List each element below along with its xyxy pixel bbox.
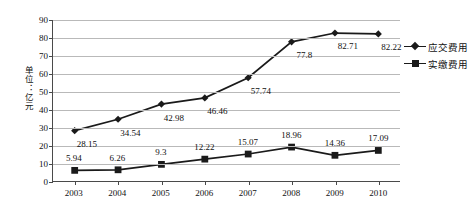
y-axis-tick [49, 20, 53, 21]
data-point-marker [71, 167, 78, 174]
y-axis-tick [49, 38, 53, 39]
x-axis-tick-label: 2006 [195, 188, 213, 198]
y-axis-tick-label: 70 [26, 52, 48, 61]
data-point-marker [332, 152, 339, 159]
y-axis-tick-label: 60 [26, 70, 48, 79]
data-point-marker [375, 30, 382, 37]
x-axis-tick-label: 2007 [239, 188, 257, 198]
x-axis-tick [162, 181, 163, 185]
x-axis-tick [292, 181, 293, 185]
y-axis-tick [49, 92, 53, 93]
data-point-marker [288, 144, 295, 151]
gridline [53, 56, 400, 57]
y-axis-tick-labels: 0102030405060708090 [26, 0, 48, 218]
data-point-marker [114, 116, 121, 123]
data-point-marker [375, 147, 382, 154]
legend-square-icon [404, 58, 426, 69]
line-chart: 单位：亿元 0102030405060708090 应交费用实缴费用 20032… [0, 0, 473, 218]
y-axis-tick [49, 74, 53, 75]
y-axis-tick [49, 56, 53, 57]
data-label: 18.96 [281, 130, 301, 139]
x-axis-tick-label: 2010 [369, 188, 387, 198]
data-point-marker [201, 156, 208, 163]
gridline [53, 38, 400, 39]
y-axis-tick [49, 182, 53, 183]
x-axis-tick [205, 181, 206, 185]
gridline [53, 92, 400, 93]
y-axis-tick-label: 20 [26, 142, 48, 151]
y-axis-tick [49, 110, 53, 111]
y-axis-tick [49, 128, 53, 129]
gridline [53, 146, 400, 147]
y-axis-tick-label: 10 [26, 160, 48, 169]
data-label: 57.74 [251, 87, 271, 96]
gridline [53, 20, 400, 21]
data-label: 14.36 [325, 139, 345, 148]
x-axis-tick [75, 181, 76, 185]
data-point-marker [201, 94, 208, 101]
data-label: 17.09 [368, 134, 388, 143]
chart-legend: 应交费用实缴费用 [404, 38, 473, 72]
x-axis-tick-label: 2008 [282, 188, 300, 198]
data-label: 6.26 [109, 153, 125, 162]
x-axis-tick-label: 2009 [326, 188, 344, 198]
data-point-marker [158, 101, 165, 108]
data-label: 28.15 [77, 140, 97, 149]
data-label: 82.22 [381, 43, 401, 52]
legend-label: 实缴费用 [426, 57, 468, 71]
y-axis-tick-label: 40 [26, 106, 48, 115]
data-label: 42.98 [164, 113, 184, 122]
x-axis-tick [379, 181, 380, 185]
y-axis-tick-label: 50 [26, 88, 48, 97]
data-label: 82.71 [338, 42, 358, 51]
y-axis-tick-label: 90 [26, 16, 48, 25]
data-point-marker [115, 166, 122, 173]
data-label: 34.54 [120, 128, 140, 137]
y-axis-tick [49, 164, 53, 165]
x-axis-tick-label: 2004 [108, 188, 126, 198]
x-axis-tick-label: 2005 [152, 188, 170, 198]
data-label: 15.07 [238, 137, 258, 146]
series-line [75, 33, 379, 131]
data-label: 46.46 [207, 107, 227, 116]
gridline [53, 128, 400, 129]
x-axis-tick-label: 2003 [65, 188, 83, 198]
data-point-marker [331, 29, 338, 36]
legend-item[interactable]: 实缴费用 [404, 55, 473, 72]
x-axis-tick [336, 181, 337, 185]
gridline [53, 164, 400, 165]
data-point-marker [245, 151, 252, 158]
y-axis-tick-label: 30 [26, 124, 48, 133]
data-label: 77.8 [296, 50, 312, 59]
legend-diamond-icon [404, 41, 426, 52]
y-axis-tick-label: 80 [26, 34, 48, 43]
data-label: 9.3 [155, 148, 166, 157]
gridline [53, 74, 400, 75]
x-axis-tick [249, 181, 250, 185]
y-axis-tick-label: 0 [26, 178, 48, 187]
data-label: 12.22 [194, 143, 214, 152]
data-label: 5.94 [66, 154, 82, 163]
legend-label: 应交费用 [426, 40, 468, 54]
legend-item[interactable]: 应交费用 [404, 38, 473, 55]
x-axis-tick [118, 181, 119, 185]
y-axis-tick [49, 146, 53, 147]
